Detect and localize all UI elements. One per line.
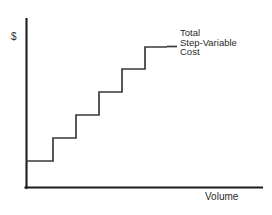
y-axis-label: $ [11,32,17,42]
series-annotation-line-3: Cost [180,47,237,57]
x-axis-label: Volume [205,192,238,202]
series-annotation: Total Step-Variable Cost [180,28,237,57]
step-cost-line [26,47,167,161]
step-variable-cost-chart: $ Volume Total Step-Variable Cost [0,0,272,215]
